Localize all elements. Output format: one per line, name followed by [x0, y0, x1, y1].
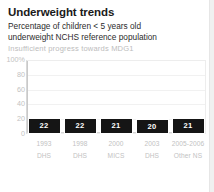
x-tick-2005-2006: 2005-2006 Other NS — [170, 138, 206, 161]
underweight-trends-chart-card: Underweight trends Percentage of childre… — [0, 0, 214, 192]
x-tick-2000: 2000 MICS — [98, 138, 134, 161]
bar-1998[interactable]: 22 — [64, 118, 97, 134]
bar-2005-2006[interactable]: 21 — [172, 118, 205, 134]
bar-slot: 22 — [64, 60, 97, 134]
bar-2000[interactable]: 21 — [100, 118, 133, 134]
bar-value-label: 22 — [76, 122, 85, 130]
x-tick-year: 2003 — [134, 138, 170, 150]
x-tick-source: DHS — [134, 150, 170, 162]
y-tick-label-40: 40 — [0, 100, 25, 108]
bar-value-label: 21 — [112, 122, 121, 130]
x-tick-year: 2000 — [98, 138, 134, 150]
bar-slot: 21 — [172, 60, 205, 134]
y-tick-label-0: 0 — [0, 130, 25, 138]
bar-2003[interactable]: 20 — [136, 119, 169, 134]
bar-slot: 20 — [136, 60, 169, 134]
page-title: Underweight trends — [8, 6, 206, 19]
x-tick-2003: 2003 DHS — [134, 138, 170, 161]
chart-subtitle-line-2: underweight NCHS reference population — [8, 32, 206, 43]
bar-slot: 21 — [100, 60, 133, 134]
bar-chart: 100% 80 60 40 20 0 22 22 21 — [0, 56, 210, 192]
x-tick-1993: 1993 DHS — [26, 138, 62, 161]
bar-value-label: 20 — [148, 123, 157, 131]
x-tick-year: 1993 — [26, 138, 62, 150]
y-tick-label-20: 20 — [0, 115, 25, 123]
y-tick-label-60: 60 — [0, 86, 25, 94]
status-note: Insufficient progress towards MDG1 — [8, 44, 206, 54]
bar-slot: 22 — [28, 60, 61, 134]
chart-header: Underweight trends Percentage of childre… — [0, 0, 214, 54]
x-tick-1998: 1998 DHS — [62, 138, 98, 161]
x-tick-source: Other NS — [170, 150, 206, 162]
bar-value-label: 22 — [40, 122, 49, 130]
bar-1993[interactable]: 22 — [28, 118, 61, 134]
y-tick-label-100: 100% — [0, 56, 25, 64]
chart-subtitle-line-1: Percentage of children < 5 years old — [8, 21, 206, 32]
x-axis-labels: 1993 DHS 1998 DHS 2000 MICS 2003 DHS 200… — [26, 138, 206, 161]
x-tick-source: DHS — [26, 150, 62, 162]
bar-value-label: 21 — [184, 122, 193, 130]
bar-series: 22 22 21 20 21 — [26, 60, 206, 134]
y-tick-label-80: 80 — [0, 71, 25, 79]
x-tick-year: 1998 — [62, 138, 98, 150]
x-tick-source: MICS — [98, 150, 134, 162]
x-tick-source: DHS — [62, 150, 98, 162]
x-tick-year: 2005-2006 — [170, 138, 206, 150]
